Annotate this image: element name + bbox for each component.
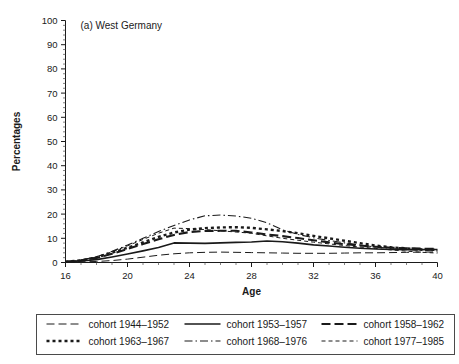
y-tick-label: 50 (47, 136, 58, 147)
legend-label-3: cohort 1963–1967 (89, 336, 170, 347)
x-tick-label: 16 (60, 270, 71, 281)
legend-label-0: cohort 1944–1952 (89, 319, 170, 330)
series-line-5 (66, 228, 438, 262)
y-tick-label: 20 (47, 209, 58, 220)
x-tick-label: 24 (184, 270, 195, 281)
x-tick-label: 32 (308, 270, 319, 281)
y-axis-title: Percentages (11, 111, 22, 171)
x-axis-title: Age (242, 286, 261, 297)
legend-label-2: cohort 1958–1962 (364, 319, 445, 330)
y-tick-label: 70 (47, 88, 58, 99)
x-tick-label: 40 (432, 270, 443, 281)
x-tick-label: 20 (122, 270, 133, 281)
series-line-2 (66, 231, 438, 262)
figure-panel: 0102030405060708090100Percentages1620242… (0, 0, 459, 364)
y-tick-label: 90 (47, 39, 58, 50)
y-tick-label: 40 (47, 160, 58, 171)
y-tick-label: 10 (47, 233, 58, 244)
y-tick-label: 80 (47, 63, 58, 74)
line-chart: 0102030405060708090100Percentages1620242… (0, 0, 459, 364)
y-tick-label: 0 (52, 257, 57, 268)
legend-label-1: cohort 1953–1957 (227, 319, 308, 330)
legend-label-5: cohort 1977–1985 (364, 336, 445, 347)
series-line-0 (66, 252, 438, 262)
y-tick-label: 60 (47, 112, 58, 123)
x-tick-label: 36 (370, 270, 381, 281)
legend-label-4: cohort 1968–1976 (227, 336, 308, 347)
panel-title: (a) West Germany (81, 20, 163, 31)
x-tick-label: 28 (246, 270, 257, 281)
y-tick-label: 100 (42, 15, 58, 26)
y-tick-label: 30 (47, 184, 58, 195)
